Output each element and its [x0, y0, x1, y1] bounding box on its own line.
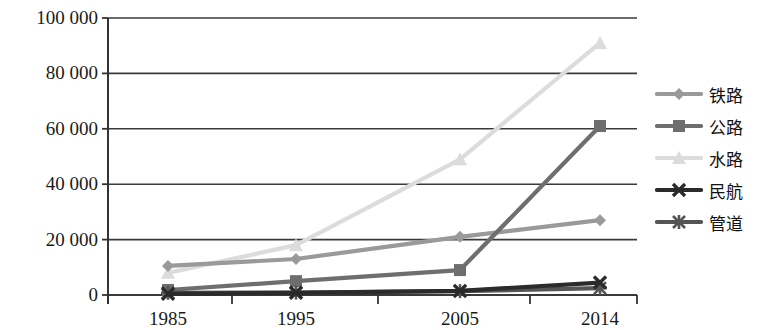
series-水路	[161, 36, 607, 279]
chart-legend: 铁路公路水路民航管道	[655, 78, 767, 238]
legend-label: 水路	[703, 146, 743, 171]
series-民航	[162, 277, 606, 300]
legend-item-管道[interactable]: 管道	[655, 206, 767, 238]
gridlines	[108, 18, 637, 295]
y-axis-tick-label: 100 000	[36, 8, 98, 27]
y-axis-tick-label: 80 000	[46, 63, 98, 82]
legend-label: 铁路	[703, 82, 743, 107]
data-series-group	[161, 36, 607, 300]
series-铁路	[162, 214, 606, 272]
legend-label: 公路	[703, 114, 743, 139]
x-axis-tick-label: 1995	[256, 309, 336, 328]
legend-marker-icon	[655, 115, 703, 137]
legend-marker-icon	[655, 83, 703, 105]
y-axis-tick-label: 40 000	[46, 174, 98, 193]
legend-item-公路[interactable]: 公路	[655, 110, 767, 142]
series-公路	[162, 120, 606, 296]
x-axis-tick-label: 2005	[420, 309, 500, 328]
legend-marker-icon	[655, 179, 703, 201]
legend-label: 管道	[703, 210, 743, 235]
chart-container: 020 00040 00060 00080 000100 000 1985199…	[0, 0, 767, 330]
legend-item-水路[interactable]: 水路	[655, 142, 767, 174]
y-axis-tick-label: 60 000	[46, 119, 98, 138]
legend-label: 民航	[703, 178, 743, 203]
y-axis-tick-label: 20 000	[46, 230, 98, 249]
legend-item-铁路[interactable]: 铁路	[655, 78, 767, 110]
axis-lines	[102, 18, 108, 304]
y-axis-tick-labels: 020 00040 00060 00080 000100 000	[0, 0, 98, 330]
legend-item-民航[interactable]: 民航	[655, 174, 767, 206]
legend-marker-icon	[655, 211, 703, 233]
x-axis-tick-label: 2014	[560, 309, 640, 328]
legend-marker-icon	[655, 147, 703, 169]
line-chart-plot	[0, 0, 767, 330]
x-axis-ticks	[108, 295, 637, 304]
y-axis-tick-label: 0	[89, 285, 99, 304]
x-axis-tick-label: 1985	[128, 309, 208, 328]
